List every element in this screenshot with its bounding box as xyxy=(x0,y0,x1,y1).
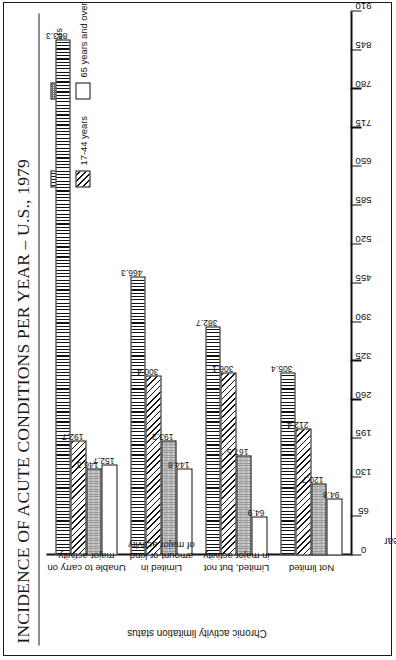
rotated-figure-stage: INCIDENCE OF ACUTE CONDITIONS PER YEAR –… xyxy=(4,3,391,655)
bar-value-label: 300.4 xyxy=(136,366,158,376)
axis-tick-label: 520 xyxy=(346,233,380,244)
bar-value-label: 382.7 xyxy=(196,317,218,327)
bar xyxy=(145,375,161,555)
bar-value-label: 152.7 xyxy=(92,455,114,465)
value-axis-title: Incidence of acute conditions per 100 pe… xyxy=(376,536,396,547)
axis-tick-label: 715 xyxy=(346,117,380,128)
axis-tick-label: 455 xyxy=(346,272,380,283)
bar-value-label: 193.2 xyxy=(152,431,174,441)
bar-value-label: 466.3 xyxy=(121,267,143,277)
bar xyxy=(220,372,236,555)
axis-tick-label: 325 xyxy=(346,350,380,361)
bar-value-label: 167.5 xyxy=(227,446,249,456)
plot-area: 305.4212.4120.794.8382.7306.1167.564.946… xyxy=(48,11,348,555)
bar xyxy=(130,276,146,555)
bar-value-label: 64.9 xyxy=(247,507,264,517)
bar xyxy=(205,326,221,555)
axis-tick-label: 390 xyxy=(346,311,380,322)
category-label: Unable to carry onmajor activity xyxy=(26,537,146,573)
bar-value-label: 94.8 xyxy=(322,489,339,499)
bar-value-label: 120.7 xyxy=(302,474,324,484)
axis-tick-label: 65 xyxy=(346,505,380,516)
bar-value-label: 305.4 xyxy=(271,363,293,373)
figure-frame: INCIDENCE OF ACUTE CONDITIONS PER YEAR –… xyxy=(3,2,392,656)
axis-tick-label: 650 xyxy=(346,155,380,166)
axis-tick-label: 0 xyxy=(346,544,380,555)
axis-tick-label: 260 xyxy=(346,389,380,400)
bar-value-label: 863.3 xyxy=(46,30,68,40)
axis-tick-label: 910 xyxy=(346,0,380,11)
bar-value-label: 144.8 xyxy=(167,459,189,469)
bar xyxy=(280,372,296,555)
bar-value-label: 306.1 xyxy=(211,363,233,373)
axis-tick-label: 195 xyxy=(346,427,380,438)
bar xyxy=(295,428,311,555)
bar-value-label: 192.7 xyxy=(61,431,83,441)
category-axis-title: Chronic activity limitation status xyxy=(97,628,297,639)
axis-tick-label: 585 xyxy=(346,194,380,205)
bar xyxy=(55,39,71,555)
axis-tick-label: 780 xyxy=(346,78,380,89)
value-axis: 0651301952603253904555205856507157808459… xyxy=(350,0,392,555)
axis-tick-label: 845 xyxy=(346,39,380,50)
axis-tick-label: 130 xyxy=(346,466,380,477)
bar-value-label: 212.4 xyxy=(286,419,308,429)
